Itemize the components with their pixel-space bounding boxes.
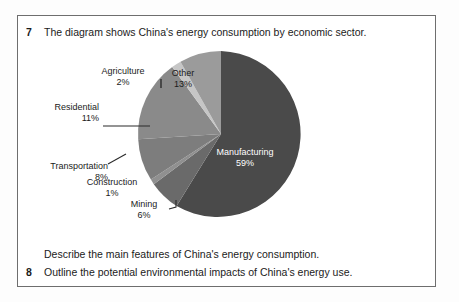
pie-label-residential-value: 11% <box>82 113 99 123</box>
pie-label-transportation-name: Transportation <box>50 161 108 171</box>
pie-label-other-name: Other <box>172 68 195 78</box>
leader-line-transportation <box>108 154 126 164</box>
pie-label-construction-value: 1% <box>105 188 118 198</box>
question-7-number: 7 <box>26 26 44 38</box>
question-8-text: Outline the potential environmental impa… <box>44 266 352 279</box>
question-box: 7 The diagram shows China's energy consu… <box>17 15 436 287</box>
pie-label-manufacturing-name: Manufacturing <box>216 147 273 157</box>
question-8-heading: 8 Outline the potential environmental im… <box>26 266 430 279</box>
pie-label-other: Other 13% <box>158 68 208 90</box>
pie-label-agriculture-name: Agriculture <box>101 66 144 76</box>
pie-label-mining-value: 6% <box>137 210 150 220</box>
pie-label-construction-name: Construction <box>87 177 138 187</box>
pie-label-construction: Construction 1% <box>76 177 148 199</box>
question-7-heading: 7 The diagram shows China's energy consu… <box>26 26 430 39</box>
pie-label-residential-name: Residential <box>54 102 99 112</box>
pie-label-agriculture: Agriculture 2% <box>87 66 159 88</box>
question-8-number: 8 <box>26 266 44 278</box>
pie-label-residential: Residential 11% <box>31 102 99 124</box>
pie-label-mining-name: Mining <box>131 199 158 209</box>
pie-label-agriculture-value: 2% <box>116 77 129 87</box>
pie-chart: Agriculture 2% Other 13% Residential 11%… <box>18 44 437 244</box>
pie-label-mining: Mining 6% <box>116 199 172 221</box>
pie-label-manufacturing: Manufacturing 59% <box>200 147 290 169</box>
question-7-text: The diagram shows China's energy consump… <box>44 26 366 39</box>
pie-label-other-value: 13% <box>174 79 192 89</box>
question-7-followup: Describe the main features of China's en… <box>44 248 319 260</box>
pie-chart-svg <box>18 44 437 244</box>
pie-label-manufacturing-value: 59% <box>236 158 254 168</box>
